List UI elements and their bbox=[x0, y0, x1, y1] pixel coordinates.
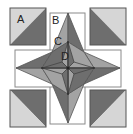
corner-square-bottom-right bbox=[90, 90, 126, 127]
corner-square-top-right bbox=[90, 8, 126, 45]
diagram-canvas: A B C D bbox=[0, 0, 133, 134]
label-d: D bbox=[61, 50, 69, 62]
label-a: A bbox=[17, 13, 25, 25]
label-c: C bbox=[54, 35, 62, 47]
corner-square-top-left bbox=[10, 8, 46, 45]
corner-square-bottom-left bbox=[10, 90, 46, 127]
center-dot bbox=[66, 66, 69, 69]
quilt-block-diagram: A B C D bbox=[0, 0, 133, 134]
label-b: B bbox=[52, 14, 59, 26]
